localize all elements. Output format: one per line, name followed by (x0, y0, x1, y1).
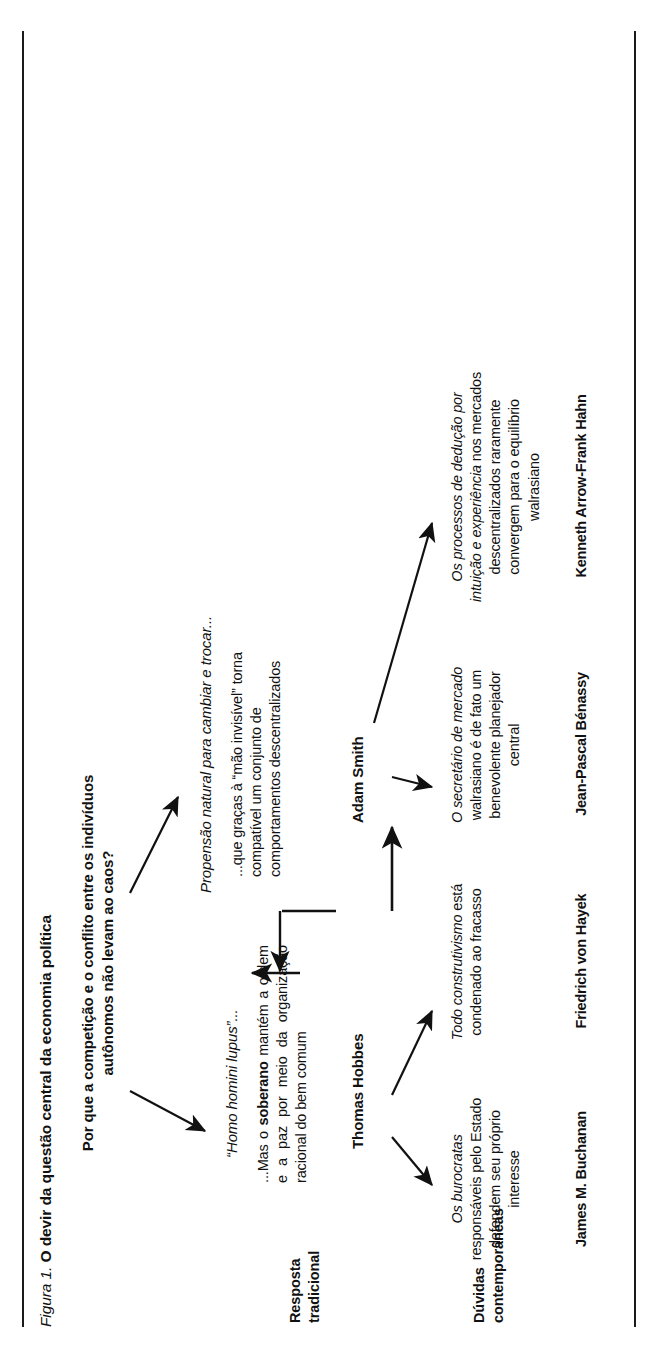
figure-top-rule (22, 31, 24, 1327)
statement-hobbes-part1: ...Mas o (255, 1125, 271, 1183)
economist-name-benassy: Jean-Pascal Bénassy (572, 639, 591, 849)
statement-smith: ...que graças à “mão invisível” torna co… (228, 621, 285, 877)
statement-arrow-hahn: Os processos de dedução por intuição e e… (448, 371, 544, 603)
statement-hayek: Todo construtivismo está condenado ao fr… (448, 877, 486, 1047)
statement-hayek-italic: Todo construtivismo (449, 915, 465, 1041)
arrow-question-to-hobbes (130, 1091, 205, 1131)
arrow-smith-to-benassy (392, 777, 432, 787)
row-label-traditional-line2: tradicional (305, 1173, 324, 1323)
premise-smith: Propensão natural para cambiar e trocar.… (196, 473, 216, 893)
row-label-traditional-line1: Resposta (286, 1173, 305, 1323)
statement-hobbes-bold: soberano (255, 1061, 271, 1125)
arrow-hobbes-to-buchanan (392, 1137, 432, 1185)
arrow-question-to-smith (130, 797, 178, 893)
figure-caption: Figura 1. O devir da questão central da … (36, 427, 56, 1327)
thinker-adam-smith: Adam Smith (348, 623, 368, 823)
figure-bottom-rule (634, 31, 636, 1327)
figure-caption-prefix: Figura 1. (37, 1267, 54, 1327)
statement-benassy-rest: walrasiano é de fato um benevolente plan… (468, 670, 522, 821)
economist-name-hayek: Friedrich von Hayek (572, 859, 591, 1063)
statement-buchanan-rest: responsáveis pelo Estado defendem seu pr… (468, 1098, 522, 1260)
statement-buchanan: Os burocratas responsáveis pelo Estado d… (448, 1091, 525, 1267)
row-label-traditional: Resposta tradicional (286, 1173, 324, 1323)
statement-buchanan-italic: Os burocratas (449, 1134, 465, 1223)
arrow-hobbes-to-hayek (392, 1011, 432, 1095)
economist-name-arrow-hahn: Kenneth Arrow-Frank Hahn (572, 357, 591, 615)
figure-caption-title: O devir da questão central da economia p… (37, 915, 54, 1263)
arrow-smith-to-arrow-hahn (374, 523, 432, 723)
figure-canvas: Figura 1. O devir da questão central da … (0, 0, 668, 1363)
statement-benassy: O secretário de mercado walrasiano é de … (448, 653, 525, 837)
statement-hobbes: ...Mas o soberano mantém a ordem e a paz… (254, 945, 311, 1183)
page-title: Por que a competição e o conflito entre … (78, 743, 118, 1183)
premise-hobbes: “Homo homini lupus”... (222, 928, 242, 1158)
economist-name-buchanan: James M. Buchanan (572, 1071, 591, 1287)
figure-rotation-wrapper: Figura 1. O devir da questão central da … (0, 0, 668, 1363)
statement-benassy-italic: O secretário de mercado (449, 667, 465, 823)
thinker-thomas-hobbes: Thomas Hobbes (348, 949, 368, 1149)
